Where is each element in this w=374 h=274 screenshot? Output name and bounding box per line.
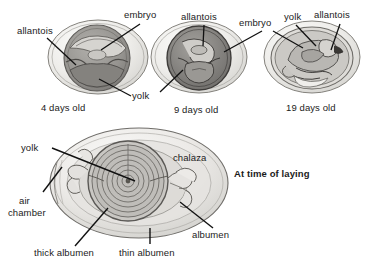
caption-19-days: 19 days old xyxy=(286,102,336,113)
label-embryo-4-days: embryo xyxy=(124,9,156,20)
egg-illustration-svg xyxy=(0,0,374,274)
label-yolk-at-laying: yolk xyxy=(21,142,38,153)
caption-at-time-of-laying: At time of laying xyxy=(234,168,310,179)
label-chalaza: chalaza xyxy=(173,152,206,163)
label-allantois-4-days: allantois xyxy=(17,25,53,36)
label-allantois-9-days: allantois xyxy=(181,11,217,22)
label-embryo-9-days: embryo xyxy=(239,17,271,28)
label-yolk-4-days: yolk xyxy=(132,90,149,101)
egg-diagram-19-days xyxy=(264,21,360,93)
egg-diagram-9-days xyxy=(151,21,262,93)
label-yolk-19-days: yolk xyxy=(284,11,301,22)
caption-4-days: 4 days old xyxy=(41,102,85,113)
label-air-chamber-line2: chamber xyxy=(8,207,46,218)
caption-9-days: 9 days old xyxy=(174,104,218,115)
egg-development-figure: allantois embryo yolk 4 days old allanto… xyxy=(0,0,374,274)
label-thick-albumen: thick albumen xyxy=(34,247,94,258)
label-air-chamber-line1: air xyxy=(19,195,30,206)
label-allantois-19-days: allantois xyxy=(314,9,350,20)
label-albumen: albumen xyxy=(192,229,229,240)
egg-diagram-4-days xyxy=(47,20,148,96)
label-thin-albumen: thin albumen xyxy=(119,247,175,258)
